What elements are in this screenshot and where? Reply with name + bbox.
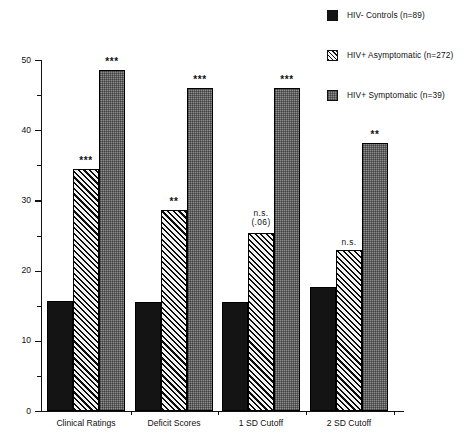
bar-hiv-pos-asymptomatic: [161, 210, 187, 411]
bar-hiv-pos-symptomatic: [187, 88, 213, 411]
plot-area: 50403020100 ***********n.s.(.06)***n.s.*…: [0, 0, 467, 445]
bar-chart: HIV- Controls (n=89) HIV+ Asymptomatic (…: [0, 0, 467, 445]
bar-hiv-pos-symptomatic: [362, 143, 388, 411]
bar-hiv-pos-symptomatic: [274, 88, 300, 411]
bar-hiv-neg-controls: [222, 302, 248, 411]
bar-hiv-neg-controls: [47, 301, 73, 411]
bars-layer: ***********n.s.(.06)***n.s.**: [0, 0, 467, 445]
bar-hiv-neg-controls: [135, 302, 161, 412]
significance-annotation: ***: [260, 75, 314, 85]
significance-annotation: ***: [173, 75, 227, 85]
significance-annotation: ***: [85, 57, 139, 67]
significance-annotation: **: [348, 130, 402, 140]
x-axis-label: 2 SD Cutoff: [294, 418, 404, 428]
bar-hiv-pos-symptomatic: [99, 70, 125, 411]
bar-hiv-pos-asymptomatic: [73, 169, 99, 411]
bar-hiv-pos-asymptomatic: [336, 250, 362, 411]
bar-hiv-neg-controls: [310, 287, 336, 411]
bar-hiv-pos-asymptomatic: [248, 233, 274, 411]
